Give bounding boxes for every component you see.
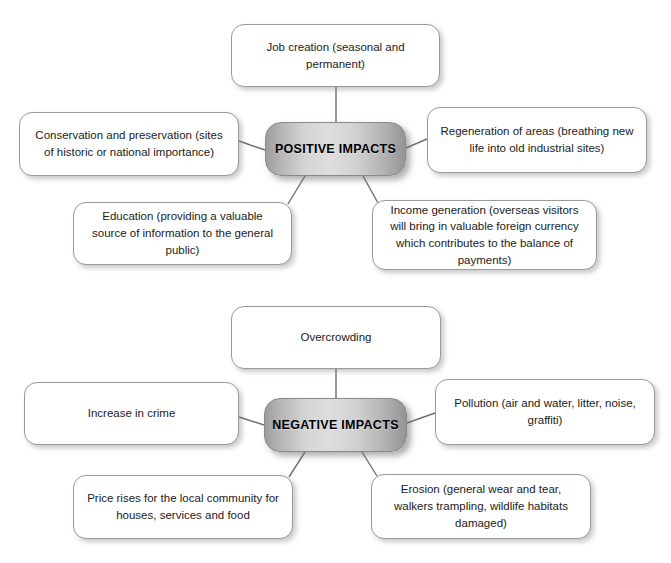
node-pollution[interactable]: Pollution (air and water, litter, noise,… bbox=[435, 379, 655, 445]
mind-map-diagram: Job creation (seasonal and permanent) Co… bbox=[0, 0, 671, 563]
hub-negative-impacts[interactable]: NEGATIVE IMPACTS bbox=[264, 398, 407, 452]
node-job-creation[interactable]: Job creation (seasonal and permanent) bbox=[231, 24, 440, 87]
node-regeneration[interactable]: Regeneration of areas (breathing new lif… bbox=[427, 107, 647, 173]
node-price-rises-label: Price rises for the local community for … bbox=[84, 490, 282, 523]
connector-hub-to-conservation bbox=[239, 141, 265, 150]
node-job-creation-label: Job creation (seasonal and permanent) bbox=[242, 39, 429, 72]
connector-hub-to-income-generation bbox=[363, 176, 378, 203]
node-education[interactable]: Education (providing a valuable source o… bbox=[73, 202, 292, 265]
node-erosion[interactable]: Erosion (general wear and tear, walkers … bbox=[371, 474, 591, 539]
node-price-rises[interactable]: Price rises for the local community for … bbox=[73, 475, 293, 539]
node-regeneration-label: Regeneration of areas (breathing new lif… bbox=[438, 123, 636, 156]
connector-hub-to-pollution bbox=[407, 413, 435, 423]
node-income-generation-label: Income generation (overseas visitors wil… bbox=[383, 202, 586, 269]
connector-hub-to-education bbox=[288, 176, 305, 204]
node-education-label: Education (providing a valuable source o… bbox=[84, 208, 281, 258]
connector-hub-to-price-rises bbox=[289, 452, 305, 477]
node-erosion-label: Erosion (general wear and tear, walkers … bbox=[382, 481, 580, 531]
node-conservation[interactable]: Conservation and preservation (sites of … bbox=[19, 112, 239, 176]
node-income-generation[interactable]: Income generation (overseas visitors wil… bbox=[372, 200, 597, 270]
connector-hub-to-erosion bbox=[362, 452, 377, 476]
node-pollution-label: Pollution (air and water, litter, noise,… bbox=[446, 395, 644, 428]
node-overcrowding[interactable]: Overcrowding bbox=[231, 306, 441, 369]
node-increase-in-crime[interactable]: Increase in crime bbox=[24, 382, 239, 445]
connector-hub-to-increase-in-crime bbox=[239, 417, 264, 425]
hub-positive-impacts-label: POSITIVE IMPACTS bbox=[266, 142, 405, 156]
node-increase-in-crime-label: Increase in crime bbox=[35, 405, 228, 422]
connector-hub-to-regeneration bbox=[406, 139, 427, 148]
node-conservation-label: Conservation and preservation (sites of … bbox=[30, 127, 228, 160]
hub-negative-impacts-label: NEGATIVE IMPACTS bbox=[265, 418, 406, 432]
node-overcrowding-label: Overcrowding bbox=[242, 329, 430, 346]
hub-positive-impacts[interactable]: POSITIVE IMPACTS bbox=[265, 122, 406, 176]
